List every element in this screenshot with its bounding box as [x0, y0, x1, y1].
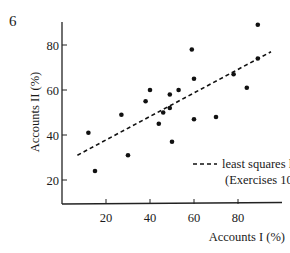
data-point — [176, 88, 181, 93]
data-point — [126, 153, 131, 158]
data-point — [192, 76, 197, 81]
data-point — [255, 56, 260, 61]
data-points — [86, 22, 260, 173]
y-tick-label: 60 — [47, 84, 60, 98]
axis-ticks: 2040608020406080 — [47, 39, 245, 226]
data-point — [190, 47, 195, 52]
x-axis-title: Accounts I (%) — [209, 230, 285, 244]
scatter-plot: 2040608020406080 least squares line (Exe… — [0, 0, 290, 253]
data-point — [93, 169, 98, 174]
y-tick-label: 80 — [47, 39, 60, 53]
data-point — [168, 92, 173, 97]
least-squares-line — [77, 52, 271, 156]
legend: least squares line (Exercises 10.4) — [193, 157, 290, 187]
x-axis-line — [62, 203, 282, 205]
x-tick-label: 80 — [232, 211, 245, 225]
x-tick-label: 40 — [144, 211, 157, 225]
data-point — [143, 99, 148, 104]
data-point — [157, 121, 162, 126]
data-point — [192, 117, 197, 122]
x-tick-label: 60 — [188, 211, 201, 225]
x-tick-label: 20 — [100, 211, 113, 225]
data-point — [148, 88, 153, 93]
y-tick-label: 40 — [47, 129, 60, 143]
data-point — [168, 106, 173, 111]
data-point — [170, 139, 175, 144]
data-point — [161, 110, 166, 115]
y-axis-title: Accounts II (%) — [28, 72, 42, 153]
legend-sublabel: (Exercises 10.4) — [225, 173, 290, 187]
data-point — [231, 72, 236, 77]
data-point — [119, 112, 124, 117]
data-point — [86, 130, 91, 135]
legend-label: least squares line — [222, 157, 290, 171]
data-point — [245, 85, 250, 90]
least-squares-dashed-line — [77, 52, 271, 156]
data-point — [214, 115, 219, 120]
y-tick-label: 20 — [47, 174, 60, 188]
data-point — [255, 22, 260, 27]
